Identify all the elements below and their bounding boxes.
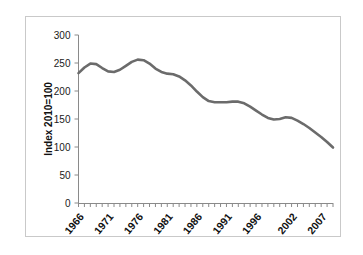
y-tick-label: 200: [54, 86, 71, 97]
data-series-group: [79, 60, 334, 148]
y-tick-label: 300: [54, 30, 71, 41]
y-axis-tick-labels: 050100150200250300: [54, 30, 71, 209]
chart-figure: 050100150200250300 196619711976198119861…: [0, 0, 363, 255]
y-axis-ticks: [75, 35, 79, 203]
line-chart: 050100150200250300 196619711976198119861…: [0, 0, 363, 255]
y-axis-group: 050100150200250300: [54, 30, 79, 209]
y-tick-label: 100: [54, 142, 71, 153]
x-tick-label: 2002: [275, 210, 299, 236]
x-tick-label: 1986: [180, 210, 204, 236]
data-line-series-0: [79, 60, 334, 148]
x-tick-label: 2007: [304, 210, 328, 236]
y-tick-label: 250: [54, 58, 71, 69]
x-axis-tick-labels: 196619711976198119861991199620022007: [62, 210, 329, 236]
y-axis-title-group: Index 2010=100: [43, 82, 54, 156]
x-tick-label: 1996: [239, 210, 263, 236]
y-tick-label: 150: [54, 114, 71, 125]
x-tick-label: 1976: [121, 210, 145, 236]
x-axis-group: 196619711976198119861991199620022007: [62, 203, 333, 236]
x-tick-label: 1966: [62, 210, 86, 236]
y-tick-label: 50: [59, 170, 71, 181]
y-tick-label: 0: [65, 198, 71, 209]
x-tick-label: 1971: [91, 210, 115, 236]
y-axis-title: Index 2010=100: [43, 82, 54, 156]
x-tick-label: 1991: [210, 210, 234, 236]
x-tick-label: 1981: [151, 210, 175, 236]
